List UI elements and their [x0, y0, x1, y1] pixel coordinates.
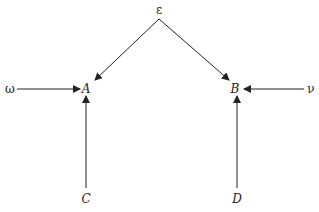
node-a: A — [81, 82, 91, 96]
node-nu: ν — [307, 82, 314, 96]
edge-epsilon-to-a — [95, 19, 159, 80]
node-d: D — [231, 192, 242, 206]
node-epsilon: ε — [156, 3, 162, 17]
edge-epsilon-to-b — [159, 19, 229, 80]
node-c: C — [81, 192, 90, 206]
diagram-canvas: ε A B ω ν C D — [0, 0, 319, 212]
node-b: B — [230, 82, 240, 96]
node-omega: ω — [5, 82, 15, 96]
